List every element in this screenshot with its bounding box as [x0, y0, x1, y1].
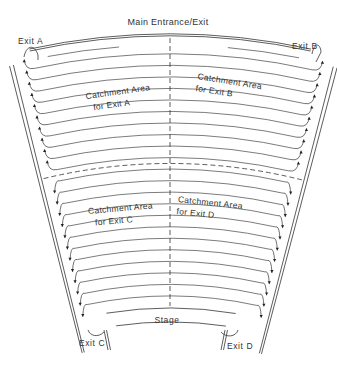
- egress-arrow: [302, 106, 312, 115]
- egress-arrow: [288, 162, 298, 171]
- exit-a-label: Exit A: [18, 36, 43, 46]
- egress-arrow: [42, 138, 52, 147]
- egress-arrowhead: [321, 61, 324, 64]
- seat-row: [47, 112, 299, 126]
- egress-arrowhead: [313, 95, 316, 98]
- egress-arrow: [47, 161, 57, 170]
- seat-row: [75, 238, 270, 249]
- seat-row: [88, 296, 257, 305]
- egress-arrowhead: [30, 93, 33, 96]
- svg-text:for Exit D: for Exit D: [176, 206, 215, 220]
- svg-text:Catchment Area: Catchment Area: [88, 200, 154, 216]
- exit-c-door: [88, 330, 104, 336]
- egress-arrowhead: [58, 213, 61, 216]
- catchment-label-b: Catchment Area for Exit B: [195, 71, 263, 103]
- egress-arrow: [37, 116, 47, 125]
- egress-arrowhead: [71, 269, 74, 272]
- catchment-dividers: [44, 38, 302, 306]
- seat-row: [40, 77, 307, 92]
- seat-row: [42, 89, 304, 104]
- seat-row: [62, 181, 283, 193]
- seat-row-partial-right: [228, 48, 299, 58]
- egress-arrow: [294, 139, 304, 148]
- egress-arrowhead: [300, 151, 303, 154]
- seat-row: [80, 261, 265, 271]
- egress-arrowhead: [74, 280, 77, 283]
- egress-arrowhead: [63, 235, 66, 238]
- egress-arrowhead: [260, 315, 263, 318]
- egress-arrowhead: [286, 203, 289, 206]
- catchment-label-c: Catchment Area for Exit C: [88, 200, 155, 228]
- seat-row: [37, 66, 310, 82]
- egress-arrow: [29, 82, 39, 91]
- egress-arrow: [312, 61, 322, 70]
- egress-arrowhead: [81, 314, 84, 317]
- egress-arrow: [304, 95, 314, 104]
- egress-arrowhead: [270, 270, 273, 273]
- egress-arrowhead: [66, 247, 69, 250]
- egress-arrowhead: [23, 59, 26, 62]
- right-wall-inner: [259, 67, 333, 354]
- seat-row-partial-left: [48, 47, 119, 57]
- egress-arrow: [291, 151, 301, 160]
- egress-arrowhead: [33, 104, 36, 107]
- egress-arrow: [24, 59, 34, 68]
- egress-arrowhead: [308, 117, 311, 120]
- egress-arrowhead: [289, 192, 292, 195]
- exit-c-label: Exit C: [79, 338, 105, 348]
- exit-d-label: Exit D: [227, 341, 253, 351]
- exit-d-door: [221, 330, 238, 336]
- egress-arrowhead: [273, 259, 276, 262]
- exit-a-door: [24, 47, 38, 60]
- left-wall-outer: [10, 66, 83, 353]
- egress-arrow: [34, 104, 44, 113]
- seat-row: [77, 250, 267, 261]
- catchment-label-a: Catchment Area for Exit A: [85, 82, 153, 113]
- egress-arrowhead: [278, 237, 281, 240]
- seat-row: [50, 123, 297, 137]
- stage-label: Stage: [154, 315, 179, 325]
- egress-arrowhead: [28, 82, 31, 85]
- egress-arrowhead: [61, 224, 64, 227]
- egress-arrowhead: [265, 293, 268, 296]
- egress-arrowhead: [79, 303, 82, 306]
- seat-row: [65, 192, 281, 204]
- egress-arrow: [45, 149, 55, 158]
- egress-arrowhead: [46, 161, 49, 164]
- egress-arrowhead: [262, 304, 265, 307]
- egress-arrowhead: [316, 83, 319, 86]
- stage-edge: [106, 308, 235, 314]
- main-entrance-label: Main Entrance/Exit: [128, 17, 209, 27]
- seat-row: [82, 273, 262, 283]
- egress-arrowhead: [41, 138, 44, 141]
- catchment-label-d: Catchment Area for Exit D: [176, 194, 243, 223]
- egress-arrow: [32, 93, 42, 102]
- right-wall-outer: [261, 68, 337, 354]
- egress-arrowhead: [76, 292, 79, 295]
- seat-row: [72, 227, 272, 238]
- egress-arrowhead: [284, 214, 287, 217]
- egress-arrow: [40, 127, 50, 136]
- seat-row: [34, 54, 312, 70]
- seat-row: [60, 169, 286, 182]
- egress-arrow: [27, 71, 37, 80]
- seating-rows: [34, 47, 312, 305]
- svg-text:for Exit C: for Exit C: [95, 214, 134, 227]
- egress-arrowhead: [281, 225, 284, 228]
- egress-arrowhead: [38, 127, 41, 130]
- egress-arrow: [296, 128, 306, 137]
- egress-arrowhead: [305, 128, 308, 131]
- egress-arrowhead: [53, 190, 56, 193]
- egress-arrow: [299, 117, 309, 126]
- egress-arrowhead: [297, 162, 300, 165]
- egress-arrowhead: [268, 281, 271, 284]
- egress-arrow: [310, 72, 320, 81]
- egress-arrowhead: [68, 258, 71, 261]
- egress-arrowhead: [56, 202, 59, 205]
- auditorium-exit-diagram: Main Entrance/Exit Exit A Exit B Exit C …: [0, 0, 337, 365]
- egress-arrowhead: [318, 72, 321, 75]
- egress-arrowhead: [25, 71, 28, 74]
- egress-arrowhead: [310, 106, 313, 109]
- egress-arrowhead: [276, 248, 279, 251]
- egress-arrowhead: [35, 116, 38, 119]
